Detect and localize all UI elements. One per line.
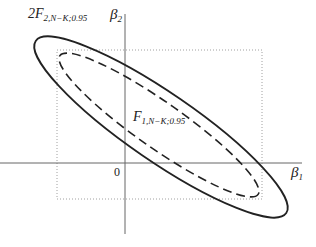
- x-axis-sub: 1: [298, 172, 303, 182]
- y-axis-sub: 2: [117, 14, 122, 24]
- inner-label-main: F: [133, 109, 142, 124]
- outer-label-sub: 2,N−K;0.95: [44, 13, 88, 23]
- x-axis-label: β1: [291, 164, 303, 182]
- inner-region-label: F1,N−K;0.95: [133, 109, 185, 126]
- inner-label-sub: 1,N−K;0.95: [142, 116, 186, 126]
- outer-region-label: 2F2,N−K;0.95: [28, 6, 87, 23]
- y-axis-label: β2: [110, 6, 122, 24]
- origin-label: 0: [114, 165, 120, 180]
- outer-label-main: 2F: [28, 6, 44, 21]
